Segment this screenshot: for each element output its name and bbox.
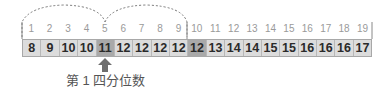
value-cell: 12 [133,40,151,56]
index-label: 7 [132,21,150,37]
index-label: 2 [40,21,58,37]
quartile-diagram: 1 2 3 4 5 6 7 8 9 10 11 12 13 14 15 16 1… [0,0,392,93]
value-cell: 10 [60,40,78,56]
value-strip: 8 9 10 10 11 12 12 12 12 12 13 14 14 15 … [22,39,372,57]
first-quartile-cell: 11 [97,40,115,56]
index-label: 5 [96,21,114,37]
value-cell: 17 [354,40,371,56]
index-label: 14 [261,21,279,37]
value-cell: 9 [41,40,59,56]
index-label: 13 [243,21,261,37]
index-label: 8 [151,21,169,37]
index-label: 9 [169,21,187,37]
value-cell: 16 [299,40,317,56]
value-cell: 15 [262,40,280,56]
value-cell: 12 [152,40,170,56]
median-cell: 12 [188,40,206,56]
index-label: 18 [335,21,353,37]
index-label: 6 [114,21,132,37]
value-cell: 15 [280,40,298,56]
value-cell: 12 [170,40,188,56]
first-quartile-label: 第 1 四分位数 [66,70,145,89]
value-cell: 13 [207,40,225,56]
index-row: 1 2 3 4 5 6 7 8 9 10 11 12 13 14 15 16 1… [22,21,372,37]
index-label: 1 [22,21,40,37]
value-cell: 10 [78,40,96,56]
value-cell: 14 [244,40,262,56]
index-label: 11 [206,21,224,37]
value-cell: 12 [115,40,133,56]
value-cell: 8 [23,40,41,56]
index-label: 15 [280,21,298,37]
value-cell: 14 [225,40,243,56]
index-label: 10 [188,21,206,37]
index-label: 4 [77,21,95,37]
index-label: 3 [59,21,77,37]
index-label: 12 [224,21,242,37]
index-label: 16 [298,21,316,37]
value-cell: 16 [317,40,335,56]
index-label: 17 [317,21,335,37]
index-label: 19 [353,21,371,37]
value-cell: 16 [335,40,353,56]
